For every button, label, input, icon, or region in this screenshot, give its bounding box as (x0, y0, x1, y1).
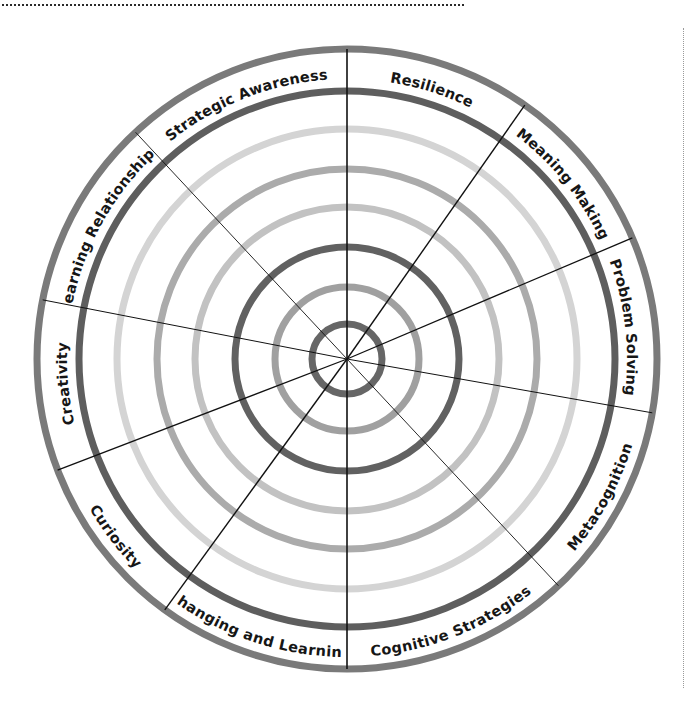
segment-label-meaning-making: Meaning Making (514, 125, 613, 242)
segment-label-creativity: Creativity (54, 342, 78, 427)
spokes-layer (43, 49, 653, 669)
learning-power-wheel: ResilienceMeaning MakingProblem SolvingM… (0, 0, 686, 714)
segment-label-learning-relationships: Learning Relationships (0, 0, 158, 305)
